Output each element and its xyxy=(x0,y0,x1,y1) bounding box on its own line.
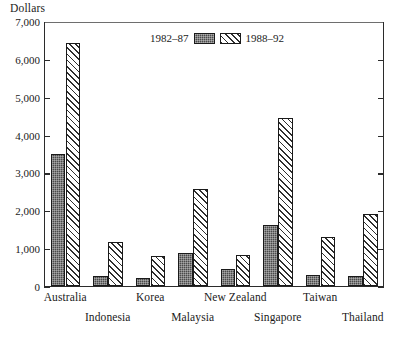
bar-korea-1982-87 xyxy=(136,278,151,286)
bar-chart: Dollars 01,0002,0003,0004,0005,0006,0007… xyxy=(0,0,406,342)
chart-legend: 1982–87 1988–92 xyxy=(150,32,284,44)
bar-new-zealand-1982-87 xyxy=(221,269,236,286)
x-axis-label-australia: Australia xyxy=(44,291,87,303)
bar-singapore-1982-87 xyxy=(263,225,278,285)
bar-taiwan-1988-92 xyxy=(321,237,336,285)
x-axis-labels: AustraliaIndonesiaKoreaMalaysiaNew Zeala… xyxy=(44,289,384,339)
bar-malaysia-1988-92 xyxy=(193,189,208,286)
y-axis-title: Dollars xyxy=(10,2,45,14)
x-axis-label-indonesia: Indonesia xyxy=(85,311,131,323)
bar-series-layer xyxy=(44,22,384,286)
bar-taiwan-1982-87 xyxy=(306,275,321,286)
bar-indonesia-1988-92 xyxy=(108,242,123,285)
bar-thailand-1988-92 xyxy=(363,214,378,286)
y-axis-tick-label: 5,000 xyxy=(2,92,40,104)
x-axis-label-singapore: Singapore xyxy=(254,311,302,323)
y-axis-tick-label: 0 xyxy=(2,281,40,293)
y-axis-tick-label: 2,000 xyxy=(2,205,40,217)
y-axis-tick-label: 4,000 xyxy=(2,130,40,142)
bar-korea-1988-92 xyxy=(151,256,166,286)
bar-australia-1982-87 xyxy=(51,154,66,286)
y-axis-tick-label: 1,000 xyxy=(2,243,40,255)
y-axis-tick-label: 7,000 xyxy=(2,16,40,28)
y-axis-tick-label: 3,000 xyxy=(2,167,40,179)
legend-label-1982-87: 1982–87 xyxy=(150,32,189,44)
x-axis-label-malaysia: Malaysia xyxy=(171,311,214,323)
x-axis-label-new-zealand: New Zealand xyxy=(204,291,267,303)
y-axis-tick-label: 6,000 xyxy=(2,54,40,66)
bar-indonesia-1982-87 xyxy=(93,276,108,285)
y-axis-tick-right xyxy=(378,287,384,288)
bar-thailand-1982-87 xyxy=(348,276,363,285)
x-axis-label-taiwan: Taiwan xyxy=(303,291,337,303)
x-axis-label-thailand: Thailand xyxy=(342,311,384,323)
plot-area: 01,0002,0003,0004,0005,0006,0007,000 xyxy=(44,22,384,287)
y-axis-tick xyxy=(44,287,50,288)
legend-label-1988-92: 1988–92 xyxy=(246,32,285,44)
bar-singapore-1988-92 xyxy=(278,118,293,286)
bar-malaysia-1982-87 xyxy=(178,253,193,286)
legend-swatch-1988-92 xyxy=(220,33,241,44)
legend-swatch-1982-87 xyxy=(194,33,215,44)
bar-australia-1988-92 xyxy=(66,43,81,286)
x-axis-label-korea: Korea xyxy=(136,291,165,303)
bar-new-zealand-1988-92 xyxy=(236,255,251,286)
